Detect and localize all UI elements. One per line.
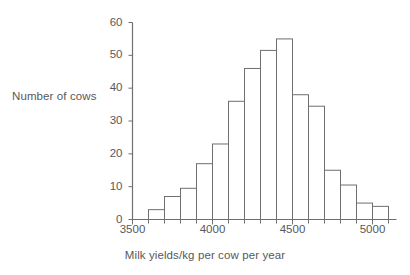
y-axis-tick-label: 10 — [99, 181, 123, 193]
histogram-bar — [181, 188, 197, 219]
y-axis-tick-label: 60 — [99, 17, 123, 29]
histogram-bar — [245, 68, 261, 219]
y-axis-tick-label: 30 — [99, 115, 123, 127]
histogram-bars — [149, 39, 389, 220]
x-axis-tick-label: 4000 — [188, 224, 238, 236]
y-axis-tick-label: 20 — [99, 148, 123, 160]
histogram-bar — [293, 95, 309, 220]
x-axis-tick-label: 3500 — [108, 224, 158, 236]
histogram-bar — [149, 210, 165, 220]
histogram-bar — [373, 206, 389, 219]
histogram-bar — [277, 39, 293, 220]
x-axis-tick-label: 4500 — [268, 224, 318, 236]
histogram-bar — [261, 50, 277, 219]
histogram-figure: Number of cows Milk yields/kg per cow pe… — [0, 0, 410, 275]
histogram-bar — [357, 203, 373, 219]
x-axis-tick-label: 5000 — [348, 224, 398, 236]
histogram-bar — [325, 170, 341, 219]
histogram-bar — [165, 197, 181, 220]
histogram-bar — [197, 164, 213, 220]
histogram-bar — [341, 185, 357, 219]
histogram-bar — [229, 101, 245, 219]
y-axis-tick-label: 50 — [99, 49, 123, 61]
histogram-bar — [213, 144, 229, 220]
histogram-bar — [309, 106, 325, 219]
y-axis-tick-label: 40 — [99, 82, 123, 94]
